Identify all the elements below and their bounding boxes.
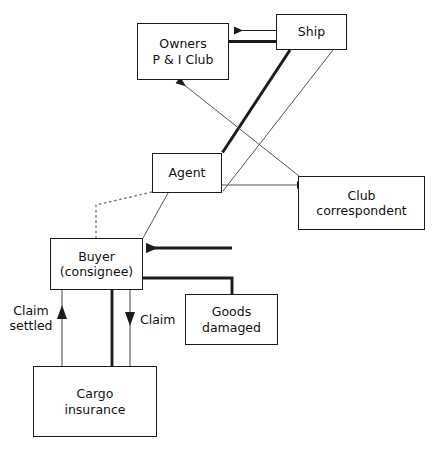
node-buyer-consignee[interactable]: Buyer (consignee) (50, 238, 143, 290)
node-buyer-label: Buyer (consignee) (57, 249, 136, 280)
node-agent-label: Agent (166, 165, 209, 180)
edge-label-claim: Claim (140, 312, 184, 327)
node-ship[interactable]: Ship (276, 14, 347, 50)
node-ship-label: Ship (295, 24, 328, 39)
node-agent[interactable]: Agent (152, 153, 222, 193)
node-owners-label: Owners P & I Club (150, 36, 217, 67)
node-goods-damaged[interactable]: Goods damaged (185, 294, 278, 345)
node-goods-damaged-label: Goods damaged (199, 304, 264, 335)
node-cargo-insurance-label: Cargo insurance (61, 386, 128, 417)
node-club-correspondent-label: Club correspondent (313, 188, 409, 219)
edge-label-claim-settled: Claim settled (5, 303, 57, 334)
arrow-claim-settled-up (57, 305, 67, 319)
node-club-correspondent[interactable]: Club correspondent (298, 176, 425, 230)
diagram-canvas: Owners P & I Club Ship Agent Club corres… (0, 0, 436, 453)
arrow-claim-down (125, 312, 135, 326)
edge-buyer-to-goods-thick (143, 278, 232, 294)
edge-agent-to-buyer-solid (143, 193, 168, 238)
edge-agent-to-buyer-dashed (96, 192, 152, 238)
node-cargo-insurance[interactable]: Cargo insurance (33, 366, 157, 437)
node-owners-p-and-i-club[interactable]: Owners P & I Club (137, 23, 229, 80)
edge-ship-to-lower-left-thin (223, 50, 333, 191)
edge-ship-to-agent-thick (223, 50, 291, 153)
